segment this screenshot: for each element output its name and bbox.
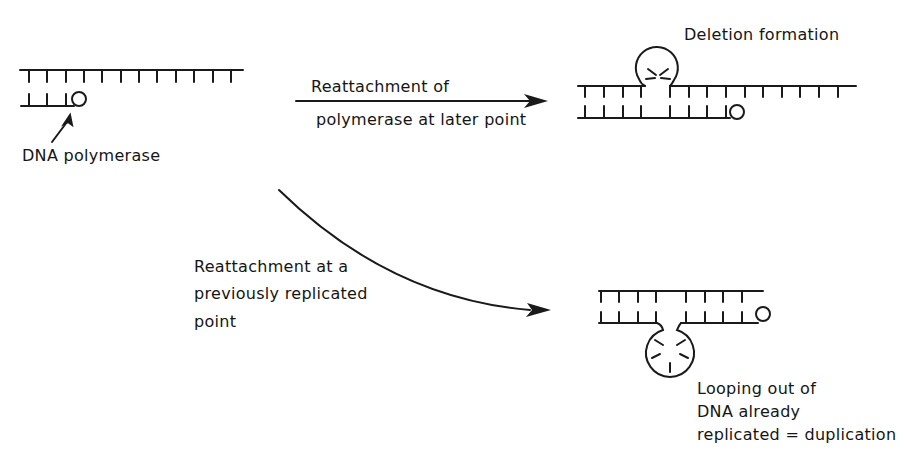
label-dup-line2: DNA already [697, 400, 800, 424]
initial-dna-strands [20, 70, 243, 106]
deletion-dna-strands [578, 47, 856, 118]
label-arrow1-bottom: polymerase at later point [316, 108, 526, 132]
duplication-dna-strands [599, 291, 763, 377]
label-dup-line1: Looping out of [697, 377, 816, 401]
label-arrow1-top: Reattachment of [311, 75, 449, 99]
label-arrow2-line3: point [194, 310, 236, 334]
dna-polymerase-icon [72, 92, 86, 106]
label-arrow2-line1: Reattachment at a [194, 255, 348, 279]
label-dup-line3: replicated = duplication [697, 423, 896, 447]
diagram-canvas: DNA polymerase Deletion formation Reatta… [0, 0, 906, 458]
label-deletion-formation: Deletion formation [684, 23, 839, 47]
label-arrow2-line2: previously replicated [194, 282, 368, 306]
polymerase-deletion-icon [730, 105, 744, 119]
label-dna-polymerase: DNA polymerase [22, 144, 160, 168]
polymerase-duplication-icon [756, 307, 770, 321]
